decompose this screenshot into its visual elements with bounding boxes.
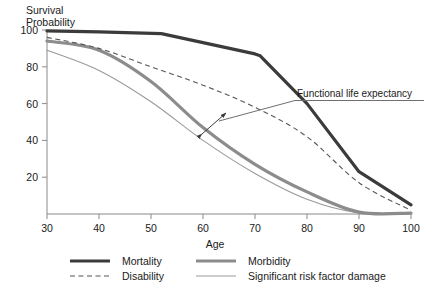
- x-tick-label-80: 80: [301, 222, 313, 234]
- legend-label-disability: Disability: [122, 270, 165, 282]
- x-tick-label-50: 50: [145, 222, 157, 234]
- series-group: [47, 31, 411, 214]
- y-axis-tick-labels: 100 80 60 40 20: [20, 24, 38, 183]
- x-tick-label-60: 60: [197, 222, 209, 234]
- series-line-significant-risk-factor-damage: [47, 50, 411, 214]
- survival-probability-line-chart: 100 80 60 40 20 30 40 50 60 70 80 90 100: [0, 0, 425, 291]
- y-tick-label-40: 40: [26, 134, 38, 146]
- x-tick-label-30: 30: [41, 222, 53, 234]
- series-line-morbidity: [47, 41, 411, 214]
- y-axis-title-line2: Probability: [26, 16, 76, 28]
- y-tick-label-80: 80: [26, 61, 38, 73]
- legend-label-morbidity: Morbidity: [248, 255, 291, 267]
- y-tick-label-20: 20: [26, 171, 38, 183]
- x-tick-label-40: 40: [93, 222, 105, 234]
- series-line-disability: [47, 37, 411, 210]
- chart-figure: 100 80 60 40 20 30 40 50 60 70 80 90 100: [0, 0, 425, 291]
- legend-item-mortality[interactable]: Mortality: [70, 255, 162, 267]
- x-tick-label-90: 90: [353, 222, 365, 234]
- legend-item-disability[interactable]: Disability: [70, 270, 165, 282]
- legend-label-mortality: Mortality: [122, 255, 162, 267]
- y-axis-title-line1: Survival: [26, 4, 63, 16]
- x-tick-label-70: 70: [249, 222, 261, 234]
- annotation-leader-line: [219, 101, 295, 122]
- y-axis-ticks: [42, 30, 47, 177]
- x-axis-title: Age: [206, 238, 225, 250]
- x-axis-tick-labels: 30 40 50 60 70 80 90 100: [41, 222, 420, 234]
- y-tick-label-60: 60: [26, 98, 38, 110]
- axes-group: [47, 30, 411, 214]
- x-axis-ticks: [47, 214, 411, 219]
- chart-legend: Mortality Morbidity Disability Significa…: [70, 255, 386, 282]
- legend-item-morbidity[interactable]: Morbidity: [196, 255, 291, 267]
- annotation-double-arrow: [202, 113, 226, 134]
- legend-item-significant-risk-factor-damage[interactable]: Significant risk factor damage: [196, 270, 386, 282]
- legend-label-significant-risk-factor-damage: Significant risk factor damage: [248, 270, 386, 282]
- x-tick-label-100: 100: [402, 222, 420, 234]
- annotation-label: Functional life expectancy: [297, 88, 412, 99]
